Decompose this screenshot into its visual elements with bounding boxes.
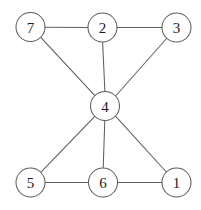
graph-edge-7-4 [41,38,95,96]
graph-edge-3-4 [116,39,167,97]
graph-node-label: 4 [101,99,109,115]
graph-node-2[interactable]: 2 [88,13,117,42]
graph-diagram: 7 2 3 4 5 6 1 [0,0,201,210]
graph-edge-4-6 [103,121,105,169]
graph-node-label: 1 [173,175,181,191]
graph-node-label: 5 [27,175,35,191]
graph-node-4[interactable]: 4 [91,92,120,121]
graph-node-6[interactable]: 6 [89,168,118,197]
graph-node-3[interactable]: 3 [162,13,191,42]
graph-node-label: 2 [99,20,107,36]
graph-node-label: 6 [99,175,107,191]
graph-node-5[interactable]: 5 [16,168,45,197]
graph-edge-4-5 [41,116,95,172]
graph-node-7[interactable]: 7 [16,13,45,42]
graph-edge-2-4 [103,42,105,92]
graph-node-label: 7 [27,20,35,36]
graph-edge-4-1 [116,116,167,172]
graph-node-1[interactable]: 1 [162,168,191,197]
graph-node-label: 3 [173,20,181,36]
graph-canvas: 7 2 3 4 5 6 1 [0,0,201,210]
